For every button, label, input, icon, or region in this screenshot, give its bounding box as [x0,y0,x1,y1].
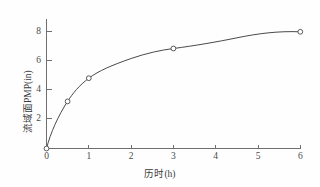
x-tick-label-5: 5 [256,152,261,162]
data-point-marker [65,99,70,104]
data-series-group [44,29,303,151]
x-axis-title: 历时(h) [0,166,320,180]
x-tick-label-0: 0 [44,152,49,162]
y-tick-label-8: 8 [30,27,41,37]
data-point-marker [171,46,176,51]
x-tick-label-4: 4 [213,152,218,162]
data-point-marker [298,29,303,34]
y-tick-label-6: 6 [30,56,41,66]
axes-group [47,19,301,149]
x-tick-marks [47,145,301,149]
chart-figure: 0 1 2 3 4 5 6 2 4 6 8 流域面PMP(in) 历时(h) [0,0,320,187]
y-tick-marks [47,32,52,119]
data-point-marker [86,76,91,81]
x-tick-label-6: 6 [298,152,303,162]
y-axis-title: 流域面PMP(in) [24,70,34,133]
x-tick-label-1: 1 [86,152,91,162]
x-tick-label-2: 2 [129,152,134,162]
x-tick-label-3: 3 [171,152,176,162]
